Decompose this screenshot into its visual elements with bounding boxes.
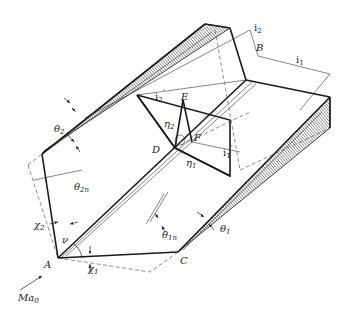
nu-label: ν bbox=[62, 234, 68, 245]
chi2-label: χ2 bbox=[33, 219, 45, 232]
point-D-label: D bbox=[151, 144, 160, 155]
theta2-label: θ2 bbox=[54, 123, 65, 136]
theta2n-label: θ2n bbox=[74, 181, 89, 194]
freestream-mach-label: Ma0 bbox=[17, 292, 39, 305]
eta2-label: η2 bbox=[164, 118, 175, 131]
ramp-outline bbox=[42, 24, 330, 258]
theta1-label: θ1 bbox=[220, 223, 231, 236]
i1-prime-label: i1′ bbox=[223, 143, 234, 160]
inlet-ramp-diagram: A B C D E F i2 i1 i2′ i1′ θ2 θ2n θ1n θ1 … bbox=[0, 0, 350, 309]
chi1-label: χ1 bbox=[87, 263, 99, 276]
theta1n-label: θ1n bbox=[162, 229, 177, 242]
point-F-label: F bbox=[193, 132, 202, 143]
point-B-label: B bbox=[255, 42, 263, 53]
left-ramp-hatched-face bbox=[42, 24, 230, 154]
point-A-label: A bbox=[43, 259, 51, 270]
point-E-label: E bbox=[180, 91, 189, 102]
point-C-label: C bbox=[180, 255, 188, 266]
i2-label: i2 bbox=[254, 22, 262, 35]
i1-label: i1 bbox=[296, 54, 304, 67]
